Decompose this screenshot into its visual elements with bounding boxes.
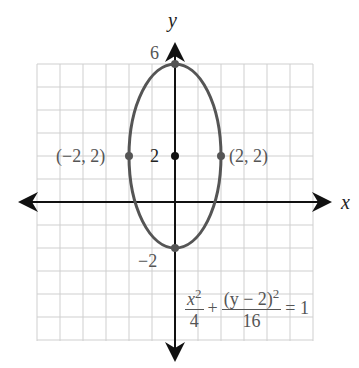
point-center bbox=[171, 152, 179, 160]
point-label-right: (2, 2) bbox=[229, 147, 268, 165]
point-bottom bbox=[171, 244, 179, 252]
tick-label-6: 6 bbox=[150, 44, 159, 62]
y-axis-label: y bbox=[168, 10, 177, 30]
point-top bbox=[171, 60, 179, 68]
point-label-left: (−2, 2) bbox=[56, 147, 105, 165]
point-left bbox=[125, 152, 133, 160]
x-axis-label: x bbox=[341, 192, 350, 212]
tick-label-2: 2 bbox=[150, 147, 159, 165]
point-right bbox=[217, 152, 225, 160]
ellipse-equation: x24 + (y − 2)216 = 1 bbox=[181, 284, 309, 332]
tick-label-neg2: −2 bbox=[138, 252, 157, 270]
